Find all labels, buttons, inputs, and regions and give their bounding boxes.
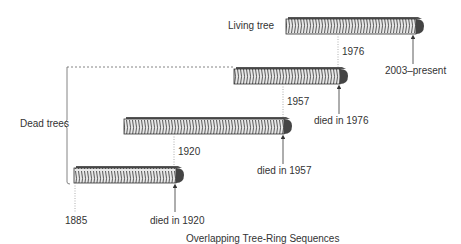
end-label-dead-2: died in 1957 — [257, 166, 312, 176]
start-year-living: 1976 — [342, 47, 364, 57]
start-year-dead-1: 1957 — [287, 97, 309, 107]
start-year-dead-2: 1920 — [178, 147, 200, 157]
diagram-caption: Overlapping Tree-Ring Sequences — [186, 234, 339, 244]
log-living-tree — [286, 17, 424, 34]
living-tree-label: Living tree — [228, 21, 274, 31]
end-label-living: 2003–present — [385, 66, 446, 76]
end-label-dead-3: died in 1920 — [150, 216, 205, 226]
log-dead-tree-3 — [74, 166, 184, 183]
log-dead-tree-2 — [124, 117, 292, 134]
dead-trees-label: Dead trees — [20, 119, 69, 129]
end-label-dead-1: died in 1976 — [314, 116, 369, 126]
start-year-dead-3: 1885 — [65, 216, 87, 226]
log-dead-tree-1 — [234, 67, 348, 84]
